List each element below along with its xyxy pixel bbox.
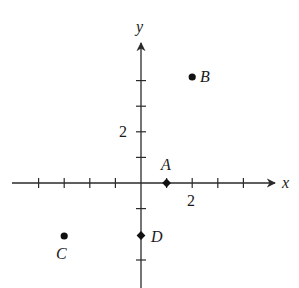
y-axis-label: y (134, 18, 144, 36)
circle-marker-icon (189, 73, 196, 80)
point-c: C (56, 232, 68, 262)
circle-marker-icon (61, 232, 68, 239)
diamond-marker-icon (137, 231, 146, 240)
coordinate-plane: x y 2 2 A B C D (0, 0, 299, 288)
diamond-marker-icon (162, 179, 171, 188)
point-c-label: C (56, 245, 67, 262)
point-a-label: A (160, 156, 171, 173)
x-axis-label: x (281, 174, 289, 191)
point-d-label: D (150, 228, 163, 245)
point-b: B (189, 68, 210, 85)
y-tick-label-2: 2 (119, 123, 127, 140)
point-b-label: B (200, 68, 210, 85)
x-tick-label-2: 2 (187, 192, 195, 209)
